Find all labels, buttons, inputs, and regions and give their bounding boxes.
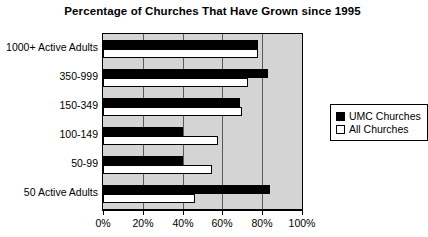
bar-all-churches <box>103 107 242 116</box>
chart-category-row <box>103 151 302 180</box>
legend-label-all-churches: All Churches <box>349 123 409 135</box>
x-axis-tick <box>262 210 263 215</box>
chart-legend: UMC Churches All Churches <box>330 104 428 141</box>
empty-square-icon <box>336 125 345 134</box>
x-axis-tick <box>103 210 104 215</box>
y-axis: 1000+ Active Adults350-999150-349100-149… <box>0 33 98 210</box>
x-axis-tick <box>183 210 184 215</box>
bar-all-churches <box>103 49 258 58</box>
y-axis-label: 1000+ Active Adults <box>0 41 98 53</box>
x-axis: 0%20%40%60%80%100% <box>102 210 303 237</box>
y-axis-label: 50-99 <box>0 157 98 169</box>
legend-item-umc-churches: UMC Churches <box>336 110 421 122</box>
bar-umc-churches <box>103 40 258 49</box>
y-axis-label: 150-349 <box>0 99 98 111</box>
chart-title: Percentage of Churches That Have Grown s… <box>0 5 425 17</box>
chart-category-row <box>103 180 302 209</box>
bar-umc-churches <box>103 185 270 194</box>
y-axis-label: 350-999 <box>0 70 98 82</box>
chart-category-row <box>103 92 302 121</box>
bar-umc-churches <box>103 156 183 165</box>
x-axis-tick <box>222 210 223 215</box>
legend-label-umc-churches: UMC Churches <box>349 110 421 122</box>
bar-all-churches <box>103 136 218 145</box>
bar-all-churches <box>103 78 248 87</box>
x-axis-tick-label: 60% <box>211 217 232 229</box>
bar-umc-churches <box>103 98 240 107</box>
x-axis-line <box>102 210 303 211</box>
bar-umc-churches <box>103 127 183 136</box>
x-axis-tick-label: 80% <box>251 217 272 229</box>
bar-umc-churches <box>103 69 268 78</box>
x-axis-tick <box>302 210 303 215</box>
x-axis-tick-label: 0% <box>95 217 110 229</box>
plot-area <box>102 33 303 210</box>
bar-all-churches <box>103 194 195 203</box>
y-axis-label: 100-149 <box>0 128 98 140</box>
chart-category-row <box>103 122 302 151</box>
x-axis-tick-label: 20% <box>132 217 153 229</box>
filled-square-icon <box>336 112 345 121</box>
x-axis-tick-label: 100% <box>289 217 316 229</box>
chart-category-row <box>103 34 302 63</box>
bar-all-churches <box>103 165 212 174</box>
y-axis-label: 50 Active Adults <box>0 186 98 198</box>
legend-item-all-churches: All Churches <box>336 123 421 135</box>
x-axis-tick <box>143 210 144 215</box>
chart-category-row <box>103 63 302 92</box>
x-axis-tick-label: 40% <box>172 217 193 229</box>
